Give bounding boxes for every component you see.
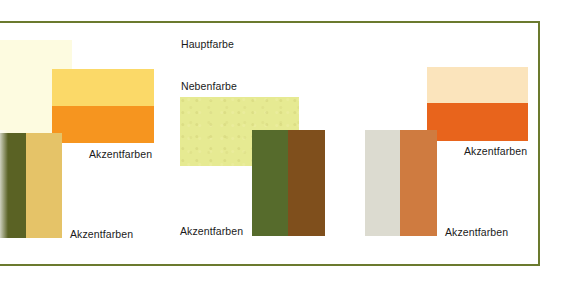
swatch-middle-green (252, 130, 288, 236)
label-secondary-color: Nebenfarbe (181, 80, 237, 92)
swatch-left-yellow (52, 69, 154, 106)
swatch-right-orange (427, 103, 528, 141)
label-accent-right-bottom: Akzentfarben (445, 226, 508, 238)
swatch-right-gray (365, 130, 400, 236)
label-accent-right-top: Akzentfarben (464, 145, 527, 157)
label-main-color: Hauptfarbe (181, 38, 234, 50)
swatch-right-copper (400, 130, 437, 236)
label-accent-left-top: Akzentfarben (89, 148, 152, 160)
label-accent-middle: Akzentfarben (180, 225, 243, 237)
left-edge-fade (0, 130, 8, 240)
swatch-left-orange (52, 106, 154, 143)
swatch-right-cream (427, 67, 528, 103)
swatch-middle-brown (288, 130, 325, 236)
label-accent-left-bottom: Akzentfarben (70, 228, 133, 240)
swatch-left-tan (26, 133, 62, 238)
